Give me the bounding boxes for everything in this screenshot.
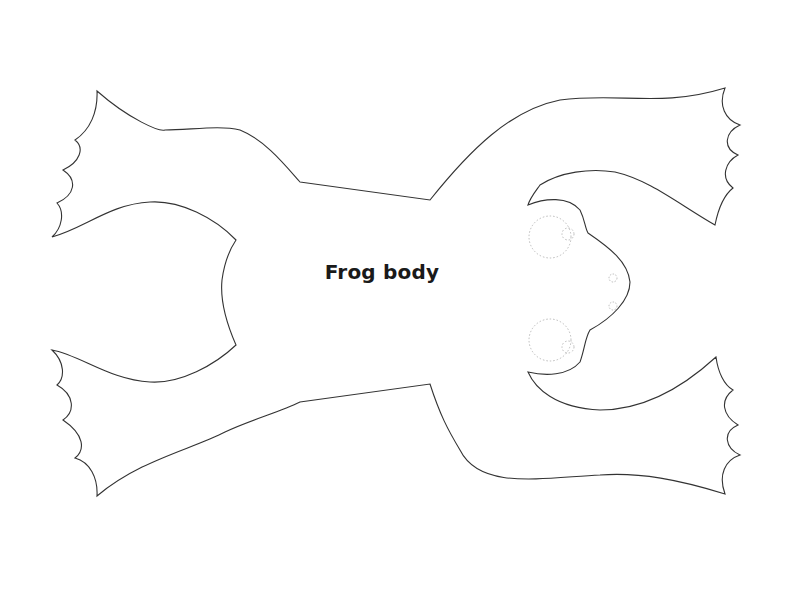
nostril-guides [609, 274, 617, 310]
frog-body-outline [52, 88, 740, 496]
frog-template-diagram [0, 0, 790, 592]
right-eye-guide [529, 319, 574, 361]
left-eye-guide [529, 216, 574, 258]
diagram-title: Frog body [300, 260, 464, 284]
